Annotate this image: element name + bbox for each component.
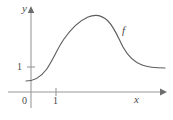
curve-label-f: f	[122, 25, 125, 36]
function-curve	[26, 15, 165, 81]
origin-label: 0	[22, 96, 27, 106]
y-axis-label: y	[22, 3, 27, 14]
x-axis-arrowhead	[160, 89, 167, 96]
x-axis-label: x	[134, 94, 139, 105]
y-axis-arrowhead	[28, 6, 34, 13]
function-graph-figure: y x f 0 1 1	[0, 0, 173, 120]
x-tick-label-1: 1	[53, 96, 58, 106]
y-tick-label-1: 1	[17, 62, 22, 72]
